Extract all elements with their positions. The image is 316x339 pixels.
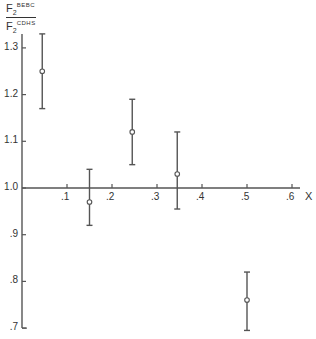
data-point (39, 34, 45, 109)
data-point (244, 272, 250, 330)
x-tick-label: .3 (151, 191, 159, 202)
data-point (174, 132, 180, 209)
y-tick-label: .9 (10, 228, 18, 239)
y-tick-label: .7 (10, 321, 18, 332)
data-point (87, 169, 93, 225)
x-tick-label: .6 (286, 191, 294, 202)
y-tick-label: .8 (10, 274, 18, 285)
data-points (39, 34, 250, 331)
y-tick-label: 1.0 (4, 181, 18, 192)
y-tick-label: 1.3 (4, 41, 18, 52)
chart-plot (0, 0, 316, 339)
marker-circle (87, 200, 92, 205)
marker-circle (245, 298, 250, 303)
marker-circle (130, 130, 135, 135)
data-point (129, 99, 135, 164)
y-tick-label: 1.2 (4, 88, 18, 99)
marker-circle (175, 172, 180, 177)
axes (22, 34, 300, 328)
marker-circle (40, 69, 45, 74)
x-tick-label: .1 (61, 191, 69, 202)
x-tick-label: .4 (196, 191, 204, 202)
x-tick-label: .5 (241, 191, 249, 202)
y-tick-label: 1.1 (4, 134, 18, 145)
x-tick-label: .2 (106, 191, 114, 202)
x-axis-label: X (305, 190, 312, 202)
